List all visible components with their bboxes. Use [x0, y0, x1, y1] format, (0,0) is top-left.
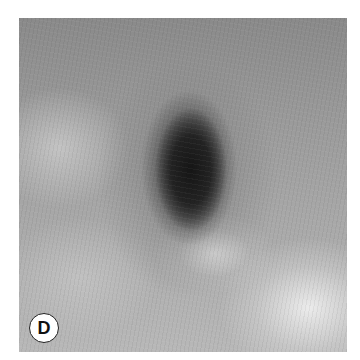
clinical-photograph: [19, 18, 347, 352]
panel-label: D: [29, 313, 59, 343]
